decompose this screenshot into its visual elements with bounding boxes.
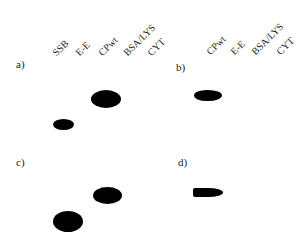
spot-c-ssb [53, 211, 83, 232]
spot-d-cpwt [193, 188, 223, 197]
lane-label-ssb: SSB [50, 38, 70, 58]
panel-label-b: b) [176, 61, 185, 73]
lane-label-e-e-right: E-E [228, 38, 247, 57]
panel-label-a: a) [16, 58, 25, 70]
lane-label-cyt: CYT [145, 36, 167, 58]
lane-label-cpwt: CPwt [96, 34, 120, 58]
lane-label-e-e: E-E [73, 39, 92, 58]
panel-label-c: c) [16, 156, 25, 168]
spot-a-cpwt [91, 90, 121, 108]
lane-label-cpwt-right: CPwt [204, 33, 228, 57]
spot-a-ssb [53, 119, 74, 130]
lane-label-cyt-right: CYT [274, 35, 296, 57]
panel-label-d: d) [178, 156, 187, 168]
spot-c-cpwt [93, 187, 122, 204]
spot-b-cpwt [194, 90, 222, 101]
